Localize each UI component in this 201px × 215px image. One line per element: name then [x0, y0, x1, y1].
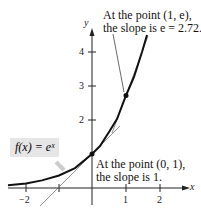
- point-1-e: [124, 93, 129, 98]
- x-axis-label: x: [190, 181, 194, 192]
- tick-y2: 2: [79, 114, 84, 125]
- y-axis-label: y: [84, 17, 88, 28]
- tick-x1: 1: [123, 194, 128, 205]
- tick-xm2: −2: [19, 194, 30, 205]
- point-0-1: [90, 152, 95, 157]
- tick-x2: 2: [157, 194, 162, 205]
- y-axis-arrow-icon: [90, 28, 95, 36]
- tick-y3: 3: [79, 80, 84, 91]
- annotation-top-2: the slope is e = 2.72.: [103, 22, 201, 35]
- x-axis-arrow-icon: [182, 186, 190, 191]
- function-label: f(x) = eˣ: [10, 138, 59, 157]
- tick-y4: 4: [79, 46, 84, 57]
- annotation-bottom-2: the slope is 1.: [96, 171, 162, 184]
